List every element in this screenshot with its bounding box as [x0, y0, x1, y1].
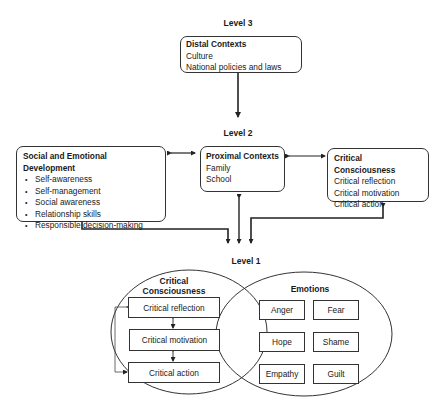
critical-consciousness-item: Critical reflection: [334, 176, 422, 188]
sed-item: Self-awareness: [35, 174, 159, 186]
level1-cc-reflection-box: Critical reflection: [128, 297, 220, 318]
emotion-box-anger: Anger: [259, 300, 305, 320]
level1-cc-title: Critical Consciousness: [128, 276, 220, 296]
level1-cc-title-line1: Critical: [128, 276, 220, 286]
sed-item: Social awareness: [35, 197, 159, 209]
level-1-label: Level 1: [216, 256, 276, 266]
critical-consciousness-item: Critical action: [334, 199, 422, 211]
emotion-box-guilt: Guilt: [313, 364, 359, 384]
critical-consciousness-box: Critical Consciousness Critical reflecti…: [327, 148, 429, 202]
level-3-label: Level 3: [208, 18, 268, 28]
level-2-label: Level 2: [208, 128, 268, 138]
sed-item: Responsible decision-making: [35, 220, 159, 232]
distal-item: National policies and laws: [186, 62, 296, 74]
sed-item: Relationship skills: [35, 209, 159, 221]
proximal-contexts-box: Proximal Contexts Family School: [200, 146, 285, 192]
sed-title: Social and Emotional Development: [23, 151, 159, 174]
critical-consciousness-title: Critical Consciousness: [334, 153, 422, 176]
arrow-cc-level1: [251, 207, 383, 243]
proximal-contexts-title: Proximal Contexts: [206, 151, 279, 163]
proximal-item: School: [206, 174, 279, 186]
sed-item: Self-management: [35, 186, 159, 198]
emotion-box-shame: Shame: [313, 332, 359, 352]
level1-cc-motivation-box: Critical motivation: [129, 329, 220, 351]
level1-cc-action-box: Critical action: [128, 362, 220, 383]
sed-box: Social and Emotional Development Self-aw…: [16, 146, 166, 222]
emotion-box-hope: Hope: [259, 332, 305, 352]
level1-cc-title-line2: Consciousness: [128, 286, 220, 296]
critical-consciousness-item: Critical motivation: [334, 188, 422, 200]
emotion-box-empathy: Empathy: [259, 364, 305, 384]
emotion-box-fear: Fear: [313, 300, 359, 320]
distal-item: Culture: [186, 51, 296, 63]
distal-contexts-title: Distal Contexts: [186, 39, 296, 51]
proximal-item: Family: [206, 163, 279, 175]
emotions-title: Emotions: [280, 284, 340, 294]
sed-list: Self-awareness Self-management Social aw…: [23, 174, 159, 232]
distal-contexts-box: Distal Contexts Culture National policie…: [180, 36, 302, 73]
